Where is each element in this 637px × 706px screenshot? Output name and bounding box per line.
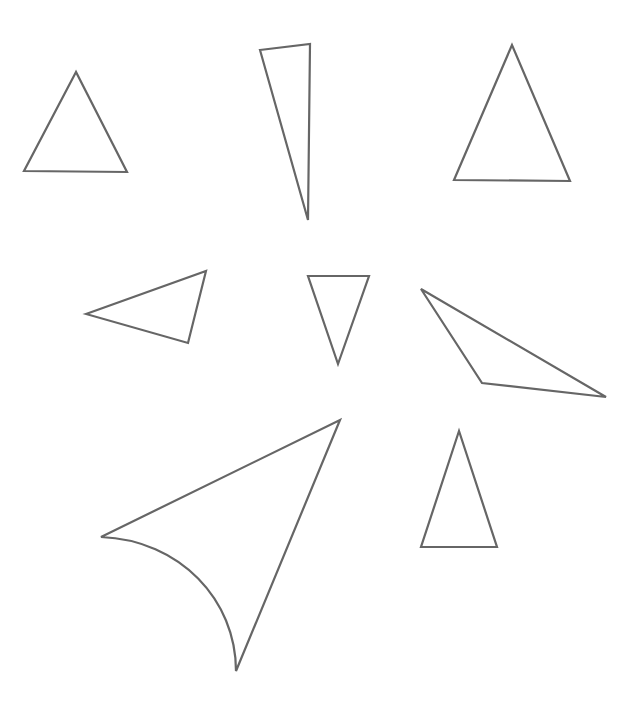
background	[0, 0, 637, 706]
triangles-diagram	[0, 0, 637, 706]
